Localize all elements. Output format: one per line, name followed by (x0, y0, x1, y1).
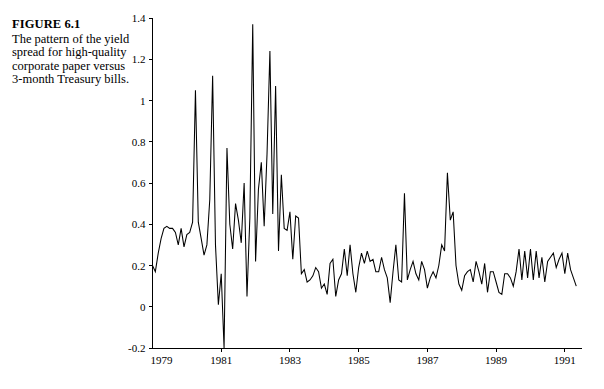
figure-root: FIGURE 6.1 The pattern of the yield spre… (0, 0, 604, 389)
x-axis-tick-label: 1985 (348, 354, 371, 366)
x-axis-tick-label: 1981 (210, 354, 232, 366)
chart-axes (153, 18, 583, 348)
x-axis-tick-label: 1979 (151, 354, 174, 366)
y-axis-tick-label: 0.2 (132, 260, 146, 272)
y-axis-tick-label: 0.8 (132, 136, 146, 148)
line-chart-svg: -0.200.20.40.60.811.21.4 197919811983198… (0, 0, 604, 389)
x-axis-tick-group: 1979198119831985198719891991 (151, 348, 576, 366)
y-axis-tick-label: 1.4 (132, 12, 146, 24)
y-axis-tick-label: 0.6 (132, 177, 146, 189)
x-axis-tick-label: 1989 (485, 354, 508, 366)
y-axis-tick-label: 0.4 (132, 218, 146, 230)
y-axis-tick-label: -0.2 (128, 342, 145, 354)
y-axis-tick-label: 0 (140, 301, 146, 313)
x-axis-tick-label: 1987 (416, 354, 439, 366)
series-line-yield-spread (153, 24, 577, 348)
y-axis-tick-label: 1 (140, 95, 146, 107)
x-axis-tick-label: 1991 (554, 354, 576, 366)
x-axis-tick-label: 1983 (279, 354, 302, 366)
y-axis-tick-group: -0.200.20.40.60.811.21.4 (128, 12, 152, 354)
y-axis-tick-label: 1.2 (132, 53, 146, 65)
chart-plot-area: -0.200.20.40.60.811.21.4 197919811983198… (0, 0, 604, 389)
